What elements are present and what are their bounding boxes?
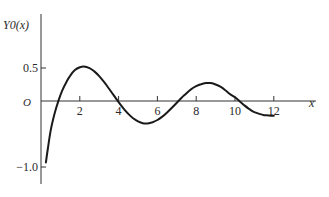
x-axis-label: x xyxy=(308,96,315,110)
x-tick-label: 10 xyxy=(229,104,241,118)
x-tick-label: 8 xyxy=(193,104,199,118)
bessel-y0-chart: Y0(x) x O 24681012 0.5−1.0 xyxy=(0,0,329,197)
x-tick-label: 6 xyxy=(154,104,160,118)
y-ticks: 0.5−1.0 xyxy=(16,61,46,174)
y-tick-label: 0.5 xyxy=(23,61,38,75)
origin-label: O xyxy=(23,96,31,108)
y-axis-label: Y0(x) xyxy=(3,18,29,32)
y-tick-label: −1.0 xyxy=(16,160,38,174)
x-tick-label: 2 xyxy=(77,104,83,118)
x-ticks: 24681012 xyxy=(77,96,280,118)
